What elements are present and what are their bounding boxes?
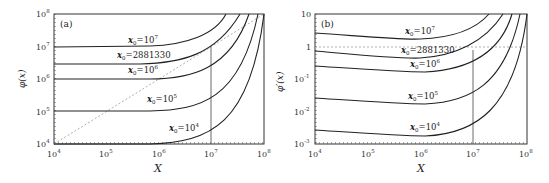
- svg-text:105: 105: [99, 148, 113, 159]
- svg-text:104: 104: [308, 148, 322, 159]
- chart-a-label-x0-1e6: x0=106: [127, 64, 159, 76]
- chart-b-y-axis-label: φ′(x): [275, 71, 285, 92]
- svg-text:10-1: 10-1: [294, 73, 310, 84]
- chart-b-label-x0-1e6: x0=106: [409, 58, 441, 70]
- svg-text:108: 108: [257, 148, 271, 159]
- svg-text:107: 107: [204, 148, 218, 159]
- chart-b-panel-label: (b): [321, 19, 334, 29]
- svg-text:106: 106: [36, 73, 50, 84]
- svg-text:108: 108: [36, 8, 50, 19]
- chart-b-x-axis-label: X: [416, 162, 426, 175]
- svg-text:10: 10: [301, 10, 311, 19]
- chart-b-y-ticks: 10 1 10-1 10-2 10-3: [294, 10, 311, 149]
- chart-a-y-axis-label: φ(x): [17, 69, 27, 88]
- svg-text:104: 104: [47, 148, 61, 159]
- chart-a-label-x0-1e7: x0=107: [127, 34, 159, 46]
- svg-text:10-3: 10-3: [294, 138, 310, 149]
- chart-a-label-x0-1e5: x0=105: [146, 93, 178, 105]
- chart-b: x0=107 x0=2881330 x0=106 x0=105 x0=104 (…: [275, 10, 533, 175]
- chart-a-x-axis-label: X: [153, 162, 163, 175]
- chart-a-label-x0-2881330: x0=2881330: [116, 50, 171, 61]
- svg-text:105: 105: [36, 106, 50, 117]
- chart-b-curve-x0-1e7: [315, 14, 489, 39]
- svg-text:107: 107: [466, 148, 480, 159]
- svg-text:108: 108: [519, 148, 533, 159]
- chart-a-y-ticks: 108 107 106 105 104: [36, 8, 50, 149]
- chart-b-label-x0-1e5: x0=105: [407, 90, 439, 102]
- chart-b-x-ticks: 104 105 106 107 108: [308, 148, 533, 159]
- svg-text:1: 1: [306, 43, 311, 52]
- chart-b-label-x0-1e4: x0=104: [409, 121, 441, 133]
- svg-text:107: 107: [36, 41, 50, 52]
- svg-text:106: 106: [414, 148, 428, 159]
- svg-text:104: 104: [36, 138, 50, 149]
- chart-a: x0=107 x0=2881330 x0=106 x0=105 x0=104 (…: [17, 8, 271, 175]
- chart-a-x-ticks: 104 105 106 107 108: [47, 148, 271, 159]
- chart-a-label-x0-1e4: x0=104: [168, 122, 200, 134]
- chart-b-label-x0-1e7: x0=107: [404, 25, 436, 37]
- figure: x0=107 x0=2881330 x0=106 x0=105 x0=104 (…: [0, 0, 549, 183]
- svg-text:10-2: 10-2: [294, 106, 310, 117]
- svg-text:105: 105: [361, 148, 375, 159]
- svg-text:106: 106: [152, 148, 166, 159]
- chart-a-panel-label: (a): [60, 19, 72, 29]
